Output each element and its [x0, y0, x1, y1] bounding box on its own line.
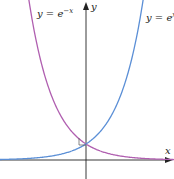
curve-e-neg-x	[25, 0, 174, 160]
y-axis-arrow-icon	[83, 2, 89, 10]
x-axis-label: x	[165, 145, 171, 156]
exponential-chart: y = e−x y = ex y x	[0, 0, 174, 179]
label-e-neg-x: y = e−x	[36, 7, 73, 19]
y-axis-label: y	[90, 1, 97, 12]
curve-e-x	[0, 0, 147, 160]
label-e-x: y = ex	[145, 11, 174, 23]
